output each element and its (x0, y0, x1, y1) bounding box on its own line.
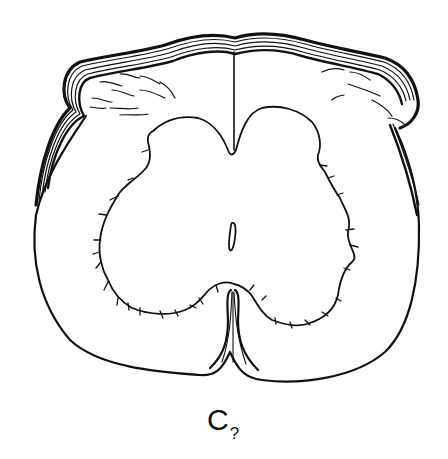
dorsal-column-strokes-left (90, 74, 175, 115)
figure-label: C? (207, 403, 238, 437)
spinal-cord-section-drawing (0, 0, 448, 459)
gray-matter-outline (99, 107, 354, 326)
meningeal-layers (36, 34, 419, 215)
gray-matter-crenations (93, 150, 358, 328)
figure-label-subscript: ? (230, 424, 239, 443)
central-canal (229, 223, 236, 250)
figure-label-main: C (207, 403, 229, 436)
